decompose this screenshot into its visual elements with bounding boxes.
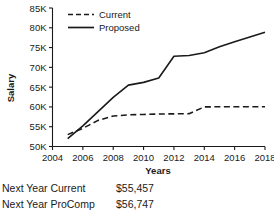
y-tick-label: 75K — [30, 42, 48, 53]
y-tick-label: 70K — [30, 62, 48, 73]
summary-row: Next Year ProComp $56,747 — [0, 198, 274, 214]
legend-label-proposed: Proposed — [99, 22, 140, 33]
x-axis-title: Years — [145, 165, 170, 176]
summary-table: Next Year Current $55,457 Next Year ProC… — [0, 182, 274, 214]
y-tick-label: 60K — [30, 101, 48, 112]
x-tick-label: 2004 — [42, 152, 63, 163]
x-tick-label: 2018 — [254, 152, 274, 163]
summary-value-procomp: $56,747 — [116, 198, 154, 210]
chart-svg: 50K55K60K65K70K75K80K85K 200420062008201… — [0, 0, 274, 178]
summary-label-current: Next Year Current — [2, 182, 116, 194]
series-line-proposed — [68, 32, 265, 138]
summary-label-procomp: Next Year ProComp — [2, 198, 116, 210]
y-tick-label: 55K — [30, 121, 48, 132]
legend-label-current: Current — [99, 9, 131, 20]
x-tick-label: 2008 — [103, 152, 124, 163]
x-tick-label: 2010 — [133, 152, 154, 163]
y-tick-label: 80K — [30, 22, 48, 33]
y-tick-label: 50K — [30, 141, 48, 152]
chart-page: 50K55K60K65K70K75K80K85K 200420062008201… — [0, 0, 274, 216]
x-axis: 20042006200820102012201420162018 — [42, 147, 274, 163]
x-tick-label: 2016 — [224, 152, 245, 163]
series-lines — [68, 32, 265, 138]
chart-legend: Current Proposed — [68, 9, 140, 33]
x-tick-label: 2012 — [163, 152, 184, 163]
x-tick-label: 2014 — [194, 152, 215, 163]
summary-value-current: $55,457 — [116, 182, 154, 194]
x-tick-label: 2006 — [72, 152, 93, 163]
y-tick-label: 85K — [30, 3, 48, 14]
y-tick-label: 65K — [30, 82, 48, 93]
salary-line-chart: 50K55K60K65K70K75K80K85K 200420062008201… — [0, 0, 274, 178]
summary-row: Next Year Current $55,457 — [0, 182, 274, 198]
x-axis-tick-labels: 20042006200820102012201420162018 — [42, 152, 274, 163]
y-axis-tick-labels: 50K55K60K65K70K75K80K85K — [30, 3, 48, 153]
series-line-current — [68, 107, 265, 135]
y-axis-title: Salary — [5, 73, 16, 102]
y-axis: 50K55K60K65K70K75K80K85K — [30, 3, 53, 153]
